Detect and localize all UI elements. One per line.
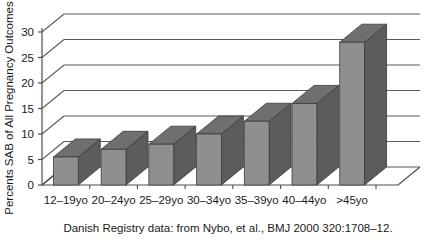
x-category-label: 25–29yo <box>139 194 183 206</box>
category-label-group: 12–19yo20–24yo25–29yo30–34yo35–39yo40–44… <box>44 194 368 206</box>
y-tick-label: 25 <box>21 52 34 64</box>
y-tick-label: 15 <box>21 103 34 115</box>
x-category-label: >45yo <box>336 194 368 206</box>
bar-front-face <box>53 157 78 185</box>
x-category-label: 40–44yo <box>282 194 326 206</box>
x-category-label: 12–19yo <box>44 194 88 206</box>
bar-front-face <box>292 103 317 185</box>
bar-front-face <box>149 144 174 185</box>
y-axis-title: Percents SAB of All Pregnancy Outcomes <box>3 1 15 215</box>
y-tick-label: 0 <box>28 179 34 191</box>
bar-front-face <box>340 42 365 185</box>
chart-container: 051015202530 12–19yo20–24yo25–29yo30–34y… <box>0 0 440 242</box>
y-tick-label: 30 <box>21 26 34 38</box>
y-tick-label: 20 <box>21 77 34 89</box>
y-tick-label: 10 <box>21 128 34 140</box>
bar-column <box>340 24 387 185</box>
chart-caption: Danish Registry data: from Nybo, et al.,… <box>63 222 392 234</box>
bar-column <box>244 103 291 185</box>
bar-column <box>292 85 339 185</box>
x-category-label: 35–39yo <box>235 194 279 206</box>
bar-front-face <box>101 149 126 185</box>
y-tick-label: 5 <box>28 154 34 166</box>
bar-chart: 051015202530 12–19yo20–24yo25–29yo30–34y… <box>0 0 440 242</box>
bar-side-face <box>365 24 387 185</box>
x-category-label: 20–24yo <box>92 194 136 206</box>
bar-front-face <box>244 121 269 185</box>
bar-front-face <box>197 134 222 185</box>
x-category-label: 30–34yo <box>187 194 231 206</box>
